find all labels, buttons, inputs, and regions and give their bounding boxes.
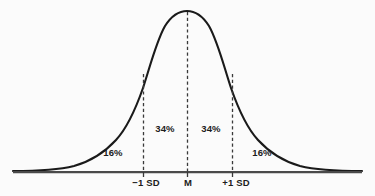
region-percent-right-inner: 34%: [201, 123, 220, 134]
axis-label-plus-one-sd: +1 SD: [222, 177, 250, 188]
normal-distribution-chart: 16% 34% 34% 16% −1 SD M +1 SD: [0, 0, 375, 196]
region-percent-right-outer: 16%: [252, 147, 271, 158]
region-percent-left-inner: 34%: [155, 123, 174, 134]
chart-canvas: [0, 0, 375, 196]
axis-label-mean: M: [184, 177, 192, 188]
region-percent-left-outer: 16%: [103, 147, 122, 158]
axis-label-minus-one-sd: −1 SD: [132, 177, 160, 188]
